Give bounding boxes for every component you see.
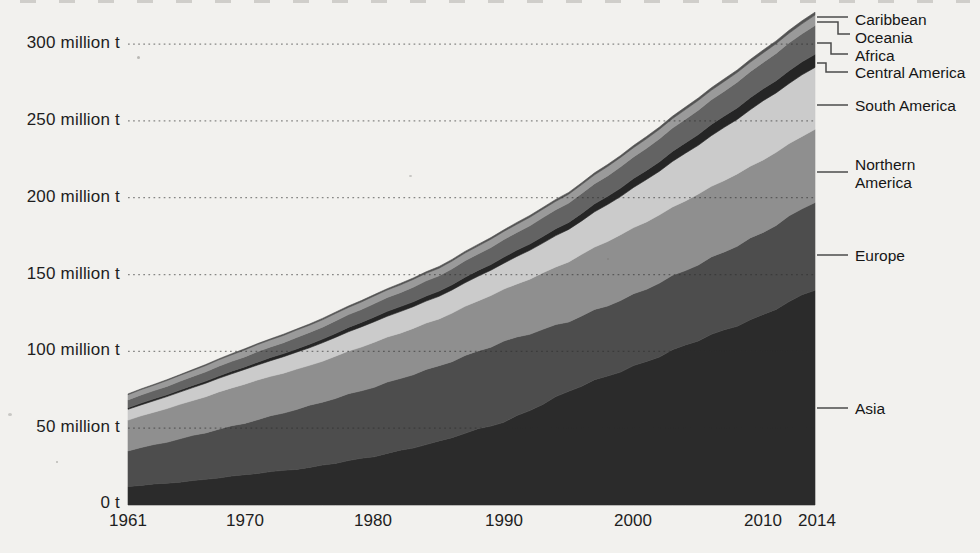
scan-speck (607, 258, 609, 260)
legend-label-asia: Asia (855, 400, 885, 418)
x-tick-label-2014: 2014 (785, 511, 849, 531)
y-tick-label-150: 150 million t (0, 264, 120, 284)
scan-speck (137, 56, 140, 59)
y-tick-label-200: 200 million t (0, 187, 120, 207)
x-tick-label-1970: 1970 (213, 511, 277, 531)
scan-speck (56, 461, 58, 463)
legend-label-caribbean: Caribbean (855, 11, 927, 29)
x-tick-label-2000: 2000 (601, 511, 665, 531)
y-tick-label-250: 250 million t (0, 110, 120, 130)
legend-label-europe: Europe (855, 247, 905, 265)
legend-connector-central-america (817, 63, 848, 72)
legend-label-oceania: Oceania (855, 29, 913, 47)
legend-connector-oceania (817, 22, 850, 34)
scan-artifact-top-edge (20, 0, 970, 3)
legend-label-central-america: Central America (855, 64, 965, 82)
scanned-chart-page: 300 million t 250 million t 200 million … (0, 0, 980, 553)
x-tick-label-1990: 1990 (472, 511, 536, 531)
legend-label-northern-america: Northern America (855, 156, 960, 193)
legend-label-africa: Africa (855, 47, 895, 65)
y-tick-label-100: 100 million t (0, 340, 120, 360)
y-tick-label-0: 0 t (0, 493, 120, 513)
stacked-area-chart (0, 0, 980, 553)
legend-label-south-america: South America (855, 97, 956, 115)
x-tick-label-1980: 1980 (341, 511, 405, 531)
y-tick-label-300: 300 million t (0, 33, 120, 53)
x-tick-label-1961: 1961 (96, 511, 160, 531)
y-tick-label-50: 50 million t (0, 417, 120, 437)
legend-connector-africa (817, 43, 848, 54)
scan-speck (409, 175, 412, 177)
scan-speck (8, 413, 12, 416)
